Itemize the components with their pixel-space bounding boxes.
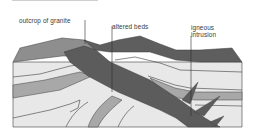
label-igneous: igneous <box>191 24 214 31</box>
label-outcrop-of-granite: outcrop of granite <box>19 17 71 24</box>
cap-layer <box>84 36 242 62</box>
label-altered-beds: altered beds <box>112 23 148 30</box>
label-intrusion: intrusion <box>191 31 216 38</box>
